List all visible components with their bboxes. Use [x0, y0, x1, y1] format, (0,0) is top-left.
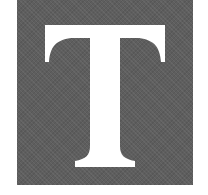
dropcap-box: T	[17, 0, 193, 185]
dropcap-letter: T	[17, 0, 193, 185]
